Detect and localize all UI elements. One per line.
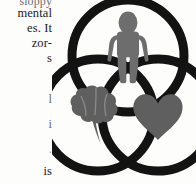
scanned-page: sloppy mental es. It zor- s l i . is <box>0 0 196 184</box>
body-text-line: es. It <box>27 22 52 35</box>
venn-diagram-figure <box>52 0 196 184</box>
brain-icon <box>71 86 118 144</box>
body-text-column: sloppy mental es. It zor- s l i . is <box>0 0 56 184</box>
body-text-line: zor- <box>32 37 52 50</box>
body-text-line: mental <box>17 7 52 20</box>
body-text-line: is <box>43 165 52 178</box>
